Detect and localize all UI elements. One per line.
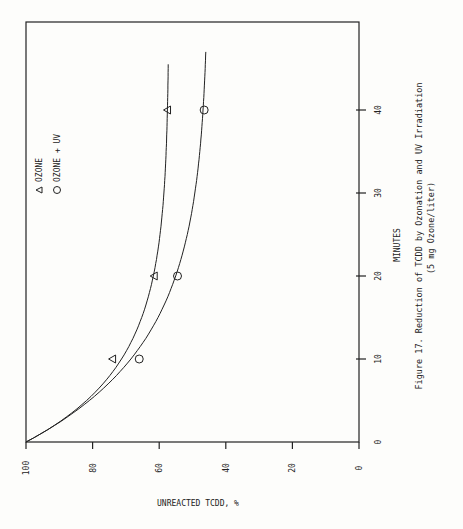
y-axis-label: UNREACTED TCDD, % bbox=[157, 499, 239, 508]
legend-circle-icon bbox=[54, 187, 61, 194]
data-points bbox=[109, 106, 209, 363]
y-tick-label: 100 bbox=[22, 461, 31, 476]
circle-marker bbox=[200, 106, 208, 114]
y-tick-label: 0 bbox=[355, 465, 364, 470]
plot-frame bbox=[26, 22, 359, 442]
fit-curve-ozone bbox=[26, 64, 168, 442]
x-tick-label: 30 bbox=[374, 188, 383, 198]
x-tick-label: 10 bbox=[374, 354, 383, 364]
circle-marker bbox=[174, 272, 182, 280]
y-tick-label: 40 bbox=[222, 463, 231, 473]
chart: 010203040 020406080100 OZONE OZONE + UV … bbox=[0, 0, 463, 529]
figure-title: Figure 17. Reduction of TCDD by Ozonatio… bbox=[414, 82, 424, 389]
fit-curves bbox=[26, 52, 206, 442]
figure-subtitle: (5 mg Ozone/liter) bbox=[426, 182, 436, 274]
y-axis: 020406080100 bbox=[22, 442, 364, 475]
y-tick-label: 80 bbox=[89, 463, 98, 473]
legend-label-ozone: OZONE bbox=[35, 158, 44, 182]
x-axis-label: MINUTES bbox=[393, 228, 402, 262]
triangle-marker bbox=[109, 355, 116, 363]
y-tick-label: 60 bbox=[155, 463, 164, 473]
legend-label-ozone-uv: OZONE + UV bbox=[53, 134, 62, 182]
x-axis: 010203040 bbox=[356, 105, 383, 444]
fit-curve-ozone-uv bbox=[26, 52, 206, 442]
y-tick-label: 20 bbox=[288, 463, 297, 473]
legend: OZONE OZONE + UV bbox=[35, 134, 62, 194]
legend-triangle-icon bbox=[36, 187, 42, 193]
x-tick-label: 20 bbox=[374, 271, 383, 281]
x-tick-label: 0 bbox=[374, 439, 383, 444]
x-tick-label: 40 bbox=[374, 105, 383, 115]
circle-marker bbox=[135, 355, 143, 363]
